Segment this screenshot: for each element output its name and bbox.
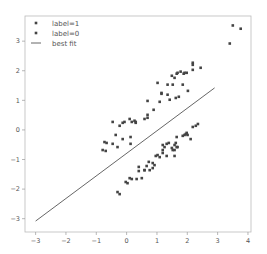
y-tick-label: −1 (10, 156, 20, 164)
data-point (105, 142, 108, 145)
x-tick-label: −2 (61, 237, 71, 245)
data-point (160, 93, 163, 96)
data-point (163, 146, 166, 149)
y-tick-label: 3 (16, 37, 20, 45)
y-tick-label: −2 (10, 185, 20, 193)
x-axis: −3−2−101234 (31, 232, 250, 245)
data-point (166, 93, 169, 96)
data-point (130, 178, 133, 181)
x-tick-label: 2 (185, 237, 189, 245)
data-point (143, 169, 146, 172)
data-point (185, 72, 188, 75)
legend-marker-icon (35, 32, 38, 35)
data-point (118, 193, 121, 196)
x-tick-label: −3 (31, 237, 41, 245)
scatter-chart: −3−2−101234 −3−2−10123 label=1label=0bes… (0, 0, 267, 254)
data-point (175, 146, 178, 149)
data-point (137, 166, 140, 169)
data-point (228, 42, 231, 45)
legend-label: label=1 (52, 20, 79, 28)
data-point (161, 149, 164, 152)
data-point (199, 66, 202, 69)
data-point (156, 82, 159, 85)
data-point (186, 134, 189, 137)
data-point (153, 164, 156, 167)
data-point (239, 27, 242, 30)
data-point (145, 165, 148, 168)
data-point (135, 178, 138, 181)
data-point (191, 69, 194, 72)
data-point (143, 118, 146, 121)
data-point (129, 143, 132, 146)
data-point (189, 138, 192, 141)
plot-area (25, 16, 251, 232)
data-point (174, 97, 177, 100)
data-point (165, 155, 168, 158)
data-point (148, 169, 151, 172)
data-point (111, 143, 114, 146)
data-point (168, 98, 171, 101)
data-point (116, 146, 119, 149)
data-point (167, 142, 170, 145)
data-point (181, 135, 184, 138)
data-point (171, 74, 174, 77)
y-tick-label: 0 (16, 126, 20, 134)
legend-label: best fit (52, 40, 77, 48)
data-point (114, 134, 117, 137)
data-point (146, 100, 149, 103)
data-point (123, 121, 126, 124)
data-point (181, 83, 184, 86)
data-point (128, 118, 131, 121)
data-point (121, 138, 124, 141)
data-point (171, 83, 174, 86)
y-tick-label: −3 (10, 215, 20, 223)
y-axis: −3−2−10123 (10, 37, 25, 223)
data-point (152, 108, 155, 111)
data-point (133, 119, 136, 122)
data-point (147, 161, 150, 164)
data-point (166, 83, 169, 86)
data-point (130, 121, 133, 124)
data-point (175, 136, 178, 139)
data-point (191, 126, 194, 129)
legend-marker-icon (35, 22, 38, 25)
data-point (187, 90, 190, 93)
data-point (173, 155, 176, 158)
legend-label: label=0 (52, 30, 79, 38)
data-point (176, 72, 179, 75)
x-tick-label: 3 (216, 237, 220, 245)
y-tick-label: 2 (16, 67, 20, 75)
data-point (158, 101, 161, 104)
data-point (231, 24, 234, 27)
data-point (140, 177, 143, 180)
data-point (104, 150, 107, 153)
data-point (182, 72, 185, 75)
y-tick-label: 1 (16, 97, 20, 105)
data-point (178, 95, 181, 98)
data-point (137, 170, 140, 173)
data-point (118, 124, 121, 127)
data-point (146, 114, 149, 117)
x-tick-label: 1 (155, 237, 159, 245)
data-point (194, 124, 197, 127)
data-point (146, 116, 149, 119)
data-point (179, 70, 182, 73)
data-point (191, 64, 194, 67)
data-point (111, 121, 114, 124)
data-point (173, 77, 176, 80)
data-point (171, 149, 174, 152)
data-point (161, 152, 164, 155)
data-point (151, 167, 154, 170)
x-tick-label: 0 (125, 237, 129, 245)
x-tick-label: 4 (246, 237, 250, 245)
data-point (129, 136, 132, 139)
x-tick-label: −1 (91, 237, 101, 245)
data-point (158, 156, 161, 159)
data-point (126, 182, 129, 185)
data-point (101, 149, 104, 152)
